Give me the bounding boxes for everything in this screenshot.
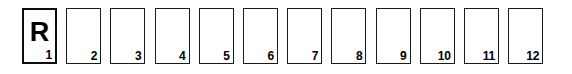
- cell-number-label: 9: [400, 50, 406, 63]
- cell-8[interactable]: 8: [331, 8, 366, 64]
- cell-4[interactable]: 4: [155, 8, 190, 64]
- cell-number-label: 3: [135, 50, 141, 63]
- cell-7[interactable]: 7: [287, 8, 322, 64]
- cell-number-label: 8: [356, 50, 362, 63]
- cell-number-label: 10: [438, 50, 451, 63]
- cell-number-label: 1: [46, 49, 52, 62]
- numbered-cell-strip: R123456789101112: [0, 0, 572, 74]
- cell-1[interactable]: R1: [22, 8, 57, 64]
- cell-6[interactable]: 6: [243, 8, 278, 64]
- cell-marker: R: [24, 18, 55, 45]
- cell-3[interactable]: 3: [110, 8, 145, 64]
- cell-12[interactable]: 12: [508, 8, 543, 64]
- cell-number-label: 11: [483, 50, 495, 63]
- cell-number-label: 5: [223, 50, 229, 63]
- cell-number-label: 4: [179, 50, 185, 63]
- cell-11[interactable]: 11: [464, 8, 499, 64]
- cell-number-label: 6: [268, 50, 274, 63]
- cell-2[interactable]: 2: [66, 8, 101, 64]
- cell-number-label: 2: [91, 50, 97, 63]
- cell-number-label: 12: [526, 50, 539, 63]
- cell-number-label: 7: [312, 50, 318, 63]
- cell-10[interactable]: 10: [420, 8, 455, 64]
- cell-9[interactable]: 9: [376, 8, 411, 64]
- cell-5[interactable]: 5: [199, 8, 234, 64]
